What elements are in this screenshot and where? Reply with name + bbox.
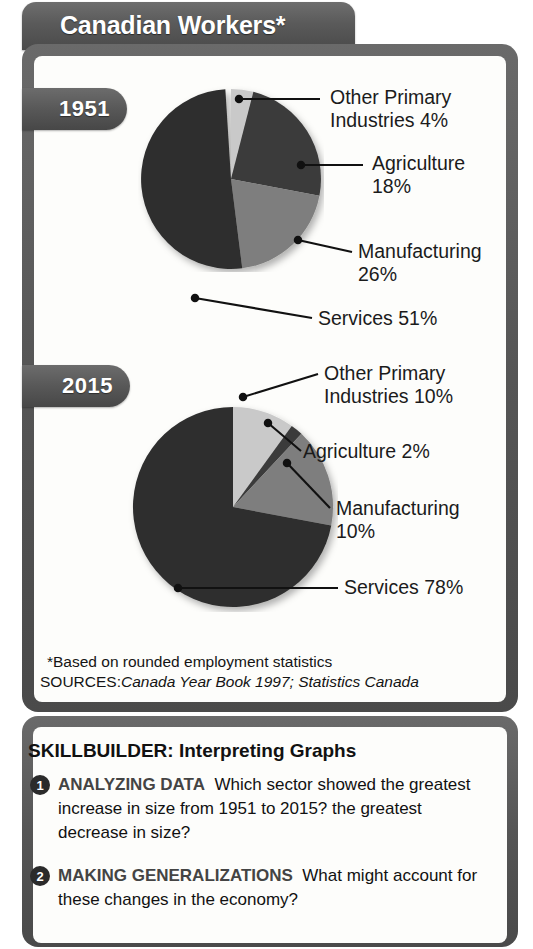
year-badge-1951: 1951 <box>22 88 127 130</box>
skillbuilder-heading: SKILLBUILDER: Interpreting Graphs <box>28 740 356 762</box>
skillbuilder-item-2-text: MAKING GENERALIZATIONS What might accoun… <box>58 864 488 912</box>
year-badge-1951-label: 1951 <box>59 96 110 122</box>
skillbuilder-item-1-kicker: ANALYZING DATA <box>58 775 214 794</box>
page-title: Canadian Workers* <box>60 11 285 40</box>
skillbuilder-item-1-text: ANALYZING DATA Which sector showed the g… <box>58 773 488 845</box>
label-1951-manufacturing: Manufacturing 26% <box>358 240 482 286</box>
pie-chart-1951-svg <box>138 86 324 272</box>
label-2015-manufacturing: Manufacturing 10% <box>336 497 460 543</box>
pie-slice-1951-services <box>141 89 242 269</box>
label-2015-other-primary: Other Primary Industries 10% <box>324 362 453 408</box>
year-badge-2015-label: 2015 <box>62 373 113 399</box>
skillbuilder-item-1-number: 1 <box>30 775 50 795</box>
pie-chart-1951 <box>138 86 324 272</box>
skillbuilder-item-2-kicker: MAKING GENERALIZATIONS <box>58 866 302 885</box>
label-2015-services: Services 78% <box>344 576 463 599</box>
label-1951-services: Services 51% <box>318 307 437 330</box>
label-1951-other-primary: Other Primary Industries 4% <box>330 86 451 132</box>
skillbuilder-item-2-number: 2 <box>30 866 50 886</box>
sources-value: Canada Year Book 1997; Statistics Canada <box>121 673 419 690</box>
footnote: *Based on rounded employment statistics <box>47 652 332 672</box>
pie-chart-2015 <box>128 402 338 612</box>
label-2015-agriculture: Agriculture 2% <box>303 440 430 463</box>
sources-label: SOURCES: <box>40 673 121 690</box>
pie-chart-2015-svg <box>128 402 338 612</box>
canadian-workers-figure: Canadian Workers* 1951 2015 <box>0 0 533 949</box>
figure-title-tab: Canadian Workers* <box>22 2 355 50</box>
sources-line: SOURCES:Canada Year Book 1997; Statistic… <box>40 672 419 692</box>
label-1951-agriculture: Agriculture 18% <box>372 152 465 198</box>
year-badge-2015: 2015 <box>22 365 130 407</box>
